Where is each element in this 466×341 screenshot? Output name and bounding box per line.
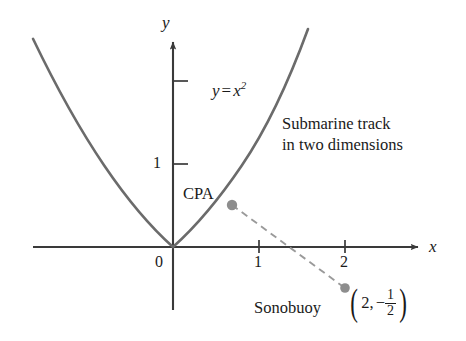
coord-open-paren: ( (350, 288, 358, 318)
sonobuoy-label: Sonobuoy (254, 300, 321, 317)
coord-close-paren: ) (399, 288, 407, 318)
fraction-numerator: 1 (385, 288, 396, 302)
x-tick-label-1: 1 (254, 254, 262, 270)
y-tick-label-1: 1 (153, 155, 161, 171)
cpa-label: CPA (183, 186, 214, 203)
coord-x-value: 2 (361, 295, 369, 312)
equation-base: x (233, 81, 241, 100)
equation-exponent: 2 (241, 79, 247, 91)
y-axis-label: y (162, 14, 170, 31)
annotation-line-2: in two dimensions (282, 134, 403, 155)
figure-canvas: y x 1 0 1 2 y=x2 Submarine track in two … (0, 0, 466, 341)
equation-lhs: y (212, 81, 220, 100)
x-axis-label: x (429, 238, 437, 255)
parabola-curve (33, 29, 308, 247)
sonobuoy-coordinates: ( 2,− 1 2 ) (348, 288, 409, 318)
equation-relation: = (220, 81, 234, 100)
x-tick-label-2: 2 (340, 254, 348, 270)
fraction-denominator: 2 (385, 303, 396, 318)
coord-y-fraction: 1 2 (385, 288, 396, 318)
origin-label: 0 (155, 254, 163, 270)
curve-equation-label: y=x2 (212, 80, 246, 99)
submarine-track-annotation: Submarine track in two dimensions (282, 113, 403, 155)
coord-minus-sign: − (376, 295, 385, 312)
cpa-point-marker (227, 200, 237, 210)
annotation-line-1: Submarine track (282, 113, 403, 134)
